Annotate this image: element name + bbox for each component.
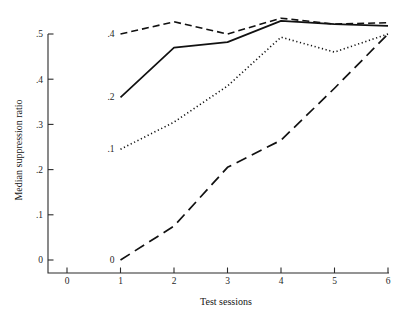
series-label-3: 0 [110, 255, 115, 265]
x-tick-label: 0 [65, 276, 70, 286]
y-tick-label: .3 [36, 120, 43, 130]
y-tick-label: .5 [36, 29, 43, 39]
y-tick-label: .2 [36, 165, 43, 175]
y-tick-label: 0 [38, 255, 43, 265]
x-tick-label: 3 [225, 276, 230, 286]
y-axis-title: Median suppression ratio [13, 99, 24, 200]
y-tick-label: .4 [36, 75, 43, 85]
x-tick-label: 6 [386, 276, 391, 286]
x-axis-title: Test sessions [200, 296, 252, 307]
series-label-1: .2 [107, 92, 114, 102]
series-label-0: .4 [107, 29, 114, 39]
x-tick-label: 2 [172, 276, 177, 286]
x-tick-label: 5 [332, 276, 337, 286]
y-tick-label: .1 [36, 210, 43, 220]
figure-container: 0.1.2.3.4.5 0123456 .4.2.10 Median suppr… [0, 0, 404, 314]
plot-background [0, 0, 404, 314]
series-label-2: .1 [107, 144, 114, 154]
x-tick-label: 1 [118, 276, 123, 286]
x-tick-label: 4 [279, 276, 284, 286]
line-chart: 0.1.2.3.4.5 0123456 .4.2.10 Median suppr… [0, 0, 404, 314]
